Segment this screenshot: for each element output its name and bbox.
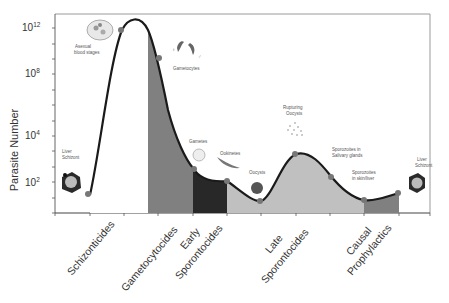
- ann-sporo-skin-2: in skin/liver: [352, 176, 375, 181]
- ann-gametes: Gametes: [189, 139, 208, 144]
- xlabel-late-2: Sporontocides: [258, 226, 310, 285]
- liver-schizont-right-icon: [409, 173, 425, 193]
- ytick-1e12: 1012: [22, 21, 41, 33]
- ann-asexual-2: blood stages: [74, 50, 100, 55]
- asexual-blood-stage-icon: [87, 20, 113, 40]
- ann-sporo-sal-2: Salivary glands: [332, 153, 363, 158]
- region-late-sporontocides: [227, 153, 364, 213]
- xlabel-gametocytocides: Gametocytocides: [118, 223, 179, 293]
- gametes-icon: [193, 149, 205, 161]
- ytick-1e2: 102: [25, 176, 40, 188]
- region-schizonticides: [90, 19, 148, 213]
- y-axis-label: Parasite Number: [8, 108, 20, 191]
- x-category-labels: Schizonticides Gametocytocides Early Spo…: [64, 218, 393, 293]
- ann-sporo-sal-1: Sporozoites in: [332, 147, 361, 152]
- ann-rupturing-1: Rupturing: [283, 105, 303, 110]
- oocysts-icon: [251, 182, 263, 194]
- ann-gametocytes: Gametocytes: [173, 66, 200, 71]
- ann-liver-schizont-right-1: Liver: [417, 157, 427, 162]
- ann-sporo-skin-1: Sporozoites: [352, 170, 377, 175]
- ookinetes-icon: [217, 157, 240, 168]
- ann-ookinetes: Ookinetes: [220, 151, 241, 156]
- ann-asexual-1: Asexual: [75, 44, 91, 49]
- parasite-lifecycle-chart: 1012 108 104 102 Parasite Number: [0, 0, 449, 303]
- ytick-1e8: 108: [25, 67, 40, 79]
- ytick-1e4: 104: [25, 129, 40, 141]
- region-causal-prophylactics: [364, 193, 399, 213]
- ann-rupturing-2: Oocysts: [286, 111, 303, 116]
- ann-liver-schizont-left-1: Liver: [62, 149, 72, 154]
- ann-liver-schizont-left-2: Schizont: [62, 155, 80, 160]
- ann-oocysts: Oocysts: [249, 170, 266, 175]
- rupturing-oocysts-icon: [287, 122, 303, 136]
- liver-schizont-left-icon: [62, 172, 81, 193]
- ann-liver-schizont-right-2: Schizont: [415, 163, 433, 168]
- gametocytes-icon: [177, 41, 194, 55]
- ann-male: ♂: [198, 54, 201, 59]
- ann-female: ♀: [172, 47, 175, 52]
- xlabel-schizonticides: Schizonticides: [64, 218, 116, 277]
